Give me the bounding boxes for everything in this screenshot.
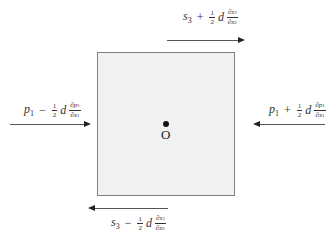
bottom-half-fraction: 12 bbox=[137, 215, 143, 232]
top-symbol: s3 bbox=[183, 9, 192, 25]
left-force-label: p1 − 12 d ∂p1∂x1 bbox=[24, 101, 82, 120]
bottom-force-arrow bbox=[92, 208, 168, 209]
top-arrowhead-icon bbox=[238, 37, 245, 43]
top-operator: + bbox=[197, 10, 204, 25]
top-force-arrow bbox=[167, 40, 239, 41]
top-half-fraction: 12 bbox=[209, 9, 215, 26]
right-d: d bbox=[305, 103, 311, 118]
bottom-symbol: s3 bbox=[111, 215, 120, 231]
bottom-d: d bbox=[146, 216, 152, 231]
top-derivative: ∂s3∂x2 bbox=[227, 8, 238, 27]
right-arrowhead-icon bbox=[253, 121, 260, 127]
right-operator: + bbox=[284, 103, 291, 118]
origin-label: O bbox=[161, 127, 170, 143]
right-half-fraction: 12 bbox=[297, 102, 303, 119]
bottom-operator: − bbox=[125, 216, 132, 231]
right-force-arrow bbox=[258, 124, 325, 125]
left-symbol: p1 bbox=[24, 102, 34, 118]
bottom-force-label: s3 − 12 d ∂s3∂x2 bbox=[111, 214, 167, 233]
left-force-arrow bbox=[10, 124, 85, 125]
left-derivative: ∂p1∂x1 bbox=[69, 101, 80, 120]
top-force-label: s3 + 12 d ∂s3∂x2 bbox=[183, 8, 239, 27]
left-d: d bbox=[60, 103, 66, 118]
top-d: d bbox=[218, 10, 224, 25]
right-force-label: p1 + 12 d ∂p1∂x1 bbox=[269, 101, 327, 120]
right-derivative: ∂p1∂x1 bbox=[314, 101, 325, 120]
left-operator: − bbox=[39, 103, 46, 118]
bottom-arrowhead-icon bbox=[88, 205, 95, 211]
left-arrowhead-icon bbox=[84, 121, 91, 127]
left-half-fraction: 12 bbox=[52, 102, 58, 119]
right-symbol: p1 bbox=[269, 102, 279, 118]
bottom-derivative: ∂s3∂x2 bbox=[155, 214, 166, 233]
